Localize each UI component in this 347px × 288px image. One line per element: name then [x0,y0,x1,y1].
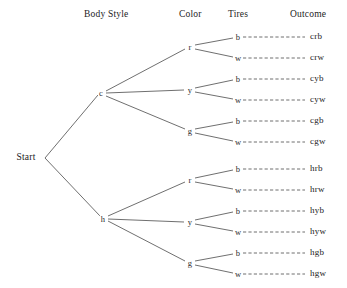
tires-node: w [234,53,242,63]
tree-edge [195,182,233,189]
tree-edge [108,221,185,261]
tires-node: b [235,74,241,84]
tires-node: b [235,116,241,126]
color-node: y [187,85,193,95]
tires-node: w [234,95,242,105]
tree-edge [106,90,184,93]
column-header: Color [179,9,202,19]
color-node: r [188,175,193,185]
tires-node: b [235,206,241,216]
tree-edge [45,95,98,158]
tree-edge [106,49,185,91]
solid-edge-group [45,38,233,273]
tree-edge [45,158,100,216]
outcome-label: cgw [310,136,326,146]
tree-edge [195,49,233,57]
color-node: y [187,217,193,227]
tires-node: w [234,137,242,147]
tree-edge [108,182,185,216]
tires-node: b [235,248,241,258]
column-header: Body Style [84,9,129,19]
outcome-label: cyw [310,94,326,104]
color-node: g [187,258,193,268]
outcome-label: hrw [310,184,325,194]
tree-edge [195,254,233,261]
outcome-label: crw [310,52,324,62]
tree-edge [195,38,233,45]
body-style-node: c [98,88,104,98]
outcome-label: hgb [310,247,324,257]
outcome-label: hyw [310,226,326,236]
tree-edge [195,212,233,220]
tree-edge [195,92,233,99]
column-header: Outcome [290,9,326,19]
outcome-label: crb [310,31,322,41]
tree-edge [108,219,184,222]
tree-edge [195,224,233,231]
tree-edge [195,133,233,141]
body-style-node: h [100,214,106,224]
tires-node: b [235,32,241,42]
outcome-label: cyb [310,73,324,83]
outcome-label: hgw [310,268,326,278]
column-header: Tires [228,9,248,19]
tree-edges-svg [0,0,347,288]
color-node: r [188,42,193,52]
tires-node: b [235,164,241,174]
color-node: g [187,126,193,136]
dashed-edge-group [243,37,305,274]
tree-edge [106,96,185,129]
tires-node: w [234,185,242,195]
start-node-label: Start [17,152,36,162]
tree-edge [195,122,233,129]
outcome-label: hrb [310,163,323,173]
outcome-label: hyb [310,205,324,215]
tires-node: w [234,269,242,279]
probability-tree-diagram: Body StyleColorTiresOutcome Start ch ryg… [0,0,347,288]
tires-node: w [234,227,242,237]
outcome-label: cgb [310,115,324,125]
tree-edge [195,265,233,273]
tree-edge [195,170,233,178]
tree-edge [195,80,233,88]
